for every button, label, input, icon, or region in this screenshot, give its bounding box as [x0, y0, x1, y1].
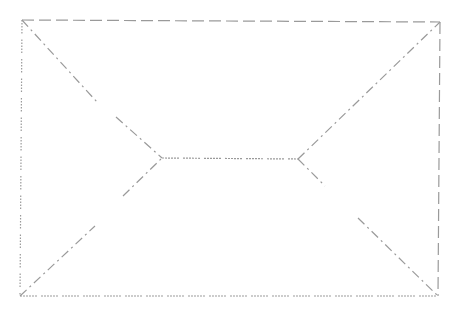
lower-right-diagonal-b-line: [358, 218, 438, 296]
left-edge-line: [20, 20, 22, 296]
upper-left-diagonal-a-line: [22, 20, 97, 102]
upper-left-diagonal-b-line: [116, 117, 162, 158]
middle-horizontal-line: [162, 158, 298, 159]
top-edge-line: [22, 20, 440, 22]
envelope-line-diagram: [0, 0, 466, 311]
lower-right-diagonal-a-line: [298, 159, 325, 186]
upper-right-diagonal-line: [298, 22, 440, 159]
right-edge-line: [438, 22, 440, 296]
diagram-edges: [20, 20, 440, 296]
diagram-canvas: [0, 0, 466, 311]
lower-left-diagonal-a-line: [20, 226, 95, 296]
lower-left-diagonal-b-line: [123, 158, 162, 196]
